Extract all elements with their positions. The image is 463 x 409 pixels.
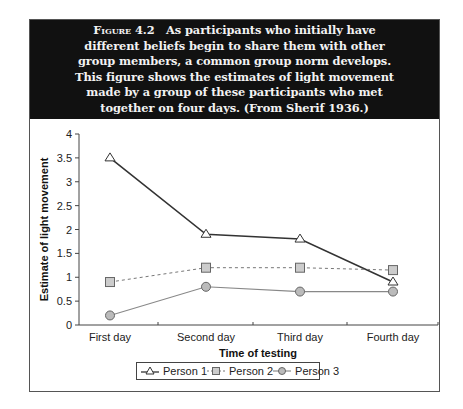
triangle-marker bbox=[295, 234, 305, 242]
series-line-1 bbox=[110, 158, 393, 282]
y-axis-title: Estimate of light movement bbox=[38, 157, 50, 301]
legend-item-person-1: Person 1 bbox=[141, 365, 207, 377]
x-tick-label: First day bbox=[89, 331, 132, 343]
triangle-marker bbox=[105, 153, 115, 161]
series-line-2 bbox=[110, 268, 393, 282]
circle-marker-icon bbox=[273, 366, 291, 376]
y-tick-label: 2 bbox=[66, 224, 72, 236]
y-tick-label: 4 bbox=[66, 128, 72, 140]
x-tick-label: Fourth day bbox=[367, 331, 420, 343]
y-tick-label: 2.5 bbox=[57, 200, 72, 212]
y-tick-label: 1 bbox=[66, 271, 72, 283]
square-marker bbox=[389, 266, 398, 275]
y-tick-label: 3.5 bbox=[57, 152, 72, 164]
circle-marker bbox=[202, 282, 211, 291]
line-chart: 00.511.522.533.54First daySecond dayThir… bbox=[0, 0, 463, 409]
y-tick-label: 0 bbox=[66, 319, 72, 331]
triangle-marker-icon bbox=[141, 366, 159, 376]
x-tick-label: Third day bbox=[277, 331, 323, 343]
circle-marker bbox=[389, 287, 398, 296]
circle-marker bbox=[296, 287, 305, 296]
legend-item-person-3: Person 3 bbox=[273, 365, 339, 377]
x-tick-label: Second day bbox=[177, 331, 236, 343]
y-tick-label: 0.5 bbox=[57, 295, 72, 307]
square-marker bbox=[296, 263, 305, 272]
circle-marker bbox=[106, 311, 115, 320]
x-axis-title: Time of testing bbox=[219, 347, 297, 359]
chart-legend: Person 1 Person 2 Person 3 bbox=[136, 362, 320, 380]
y-tick-label: 3 bbox=[66, 176, 72, 188]
legend-item-person-2: Person 2 bbox=[207, 365, 273, 377]
square-marker-icon bbox=[207, 366, 225, 376]
square-marker bbox=[202, 263, 211, 272]
y-tick-label: 1.5 bbox=[57, 247, 72, 259]
square-marker bbox=[106, 278, 115, 287]
series-line-3 bbox=[110, 287, 393, 316]
